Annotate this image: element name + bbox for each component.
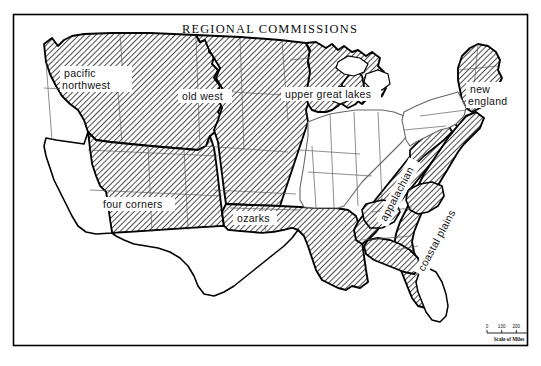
label-new-england-line2: england — [468, 95, 507, 107]
label-upper-great-lakes: upper great lakes — [285, 88, 371, 100]
scale-label-100: 100 — [498, 324, 506, 329]
label-pacific-northwest-line2: northwest — [62, 79, 110, 91]
map-label-four-corners: four corners — [99, 197, 175, 211]
map-canvas: pacific northwest old west upper great l… — [0, 0, 541, 366]
label-four-corners: four corners — [103, 198, 163, 210]
map-label-old-west: old west — [178, 89, 232, 103]
map-label-upper-great-lakes: upper great lakes — [281, 87, 381, 101]
scale-label-0: 0 — [486, 324, 489, 329]
label-new-england-line1: new — [470, 83, 490, 95]
label-pacific-northwest-line1: pacific — [64, 67, 96, 79]
scale-caption: Scale of Miles — [494, 336, 525, 342]
regional-commissions-map-figure: pacific northwest old west upper great l… — [0, 0, 541, 366]
label-old-west: old west — [182, 90, 223, 102]
map-label-new-england: new england — [466, 82, 518, 108]
scale-label-200: 200 — [512, 324, 520, 329]
map-label-pacific-northwest: pacific northwest — [60, 66, 132, 92]
label-ozarks: ozarks — [237, 212, 270, 224]
map-label-ozarks: ozarks — [233, 211, 277, 225]
page-title: REGIONAL COMMISSIONS — [182, 22, 358, 36]
